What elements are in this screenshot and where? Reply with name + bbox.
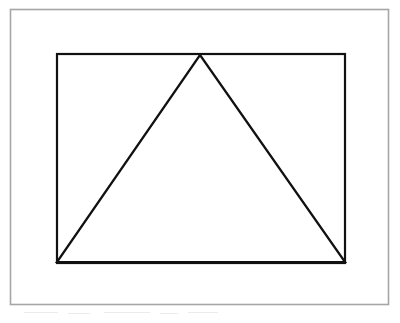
figure-canvas [0,0,400,323]
rectangle-shape [57,54,345,263]
geometry-figure [0,0,400,323]
